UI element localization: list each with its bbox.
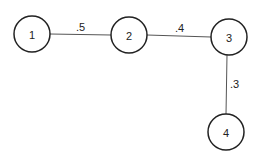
node-4: 4 xyxy=(208,114,244,150)
node-3: 3 xyxy=(211,19,247,55)
edge-weight-2-3: .4 xyxy=(175,22,184,34)
node-label-3: 3 xyxy=(226,32,232,44)
edge-1-2: .5 xyxy=(50,21,111,35)
edge-2-3: .4 xyxy=(147,22,211,37)
node-label-2: 2 xyxy=(126,30,132,42)
edge-3-4: .3 xyxy=(226,55,239,114)
node-2: 2 xyxy=(111,17,147,53)
edge-weight-1-2: .5 xyxy=(76,21,85,33)
node-label-1: 1 xyxy=(29,29,35,41)
node-label-4: 4 xyxy=(223,127,229,139)
edge-weight-3-4: .3 xyxy=(230,78,239,90)
graph-diagram: .5 .4 .3 1 2 3 4 xyxy=(0,0,259,159)
node-1: 1 xyxy=(14,16,50,52)
